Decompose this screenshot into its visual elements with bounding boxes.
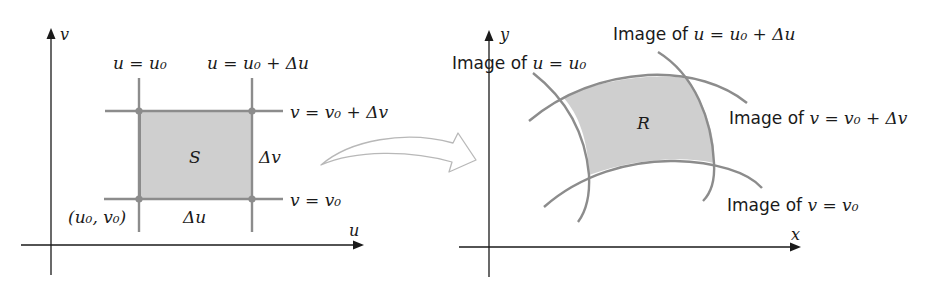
uv-to-xy-mapping-diagram: v u u = u₀ u = u₀ + Δu v = v₀ + Δv v = v… (0, 0, 930, 286)
label-v-eq-v0: v = v₀ (290, 190, 341, 210)
corner-dot (135, 107, 142, 114)
delta-u-label: Δu (182, 207, 206, 227)
v-axis-label: v (60, 25, 69, 44)
delta-v-label: Δv (258, 147, 281, 167)
label-image-u-eq-u0-plus-du: Image of u = u₀ + Δu (613, 24, 795, 44)
u-axis-arrowhead-icon (353, 241, 364, 250)
label-v-eq-v0-plus-dv: v = v₀ + Δv (290, 102, 388, 122)
label-u-eq-u0-plus-du: u = u₀ + Δu (207, 53, 309, 73)
left-panel-uv-plane: v u u = u₀ u = u₀ + Δu v = v₀ + Δv v = v… (21, 25, 388, 275)
transform-arrow-icon (321, 133, 476, 172)
corner-dot (248, 107, 255, 114)
label-image-v-eq-v0: Image of v = v₀ (727, 195, 859, 215)
x-axis-label: x (791, 225, 800, 244)
region-r-label: R (636, 113, 650, 133)
corner-dot (135, 195, 142, 202)
label-u-eq-u0: u = u₀ (113, 53, 167, 73)
u-axis-label: u (349, 221, 359, 240)
y-axis-label: y (499, 25, 510, 44)
right-panel-xy-plane: y x Image of u = u₀ Image of u = u₀ + Δu… (452, 24, 908, 277)
corner-dot (248, 195, 255, 202)
y-axis-arrowhead-icon (485, 30, 494, 41)
region-s-label: S (189, 147, 201, 167)
corner-point-label: (u₀, v₀) (68, 207, 126, 227)
label-image-u-eq-u0: Image of u = u₀ (452, 53, 586, 73)
label-image-v-eq-v0-plus-dv: Image of v = v₀ + Δv (729, 108, 908, 128)
v-axis-arrowhead-icon (47, 28, 56, 39)
